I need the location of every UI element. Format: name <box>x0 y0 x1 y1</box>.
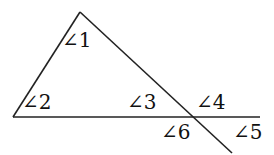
angle-4-label: ∠4 <box>196 92 225 112</box>
angle-2-label: ∠2 <box>22 92 51 112</box>
angle-1-label: ∠1 <box>62 30 91 50</box>
angle-3-label: ∠3 <box>127 92 156 112</box>
angle-5-label: ∠5 <box>233 122 262 142</box>
transversal-side <box>80 12 232 153</box>
angle-6-label: ∠6 <box>161 122 190 142</box>
